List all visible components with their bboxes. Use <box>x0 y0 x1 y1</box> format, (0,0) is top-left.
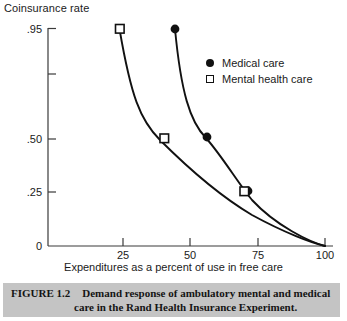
caption-line-1: FIGURE 1.2 Demand response of ambulatory… <box>11 286 336 300</box>
legend-item-mental-health-care: Mental health care <box>203 71 313 87</box>
caption-text-line-1: Demand response of ambulatory mental and… <box>82 286 330 300</box>
x-tick-label-25: 25 <box>117 249 129 261</box>
x-tick-label-50: 50 <box>184 249 196 261</box>
filled-circle-icon <box>203 59 217 67</box>
legend-label-medical-care: Medical care <box>222 57 284 69</box>
x-tick-label-100: 100 <box>316 249 334 261</box>
data-point-mental-health-care <box>240 187 249 196</box>
y-tick-label-95: .95 <box>16 23 42 35</box>
data-point-medical-care <box>203 133 212 142</box>
caption-text-line-2: care in the Rand Health Insurance Experi… <box>11 300 336 314</box>
y-tick-label-25: .25 <box>16 186 42 198</box>
data-point-mental-health-care <box>116 25 125 34</box>
legend-label-mental-health-care: Mental health care <box>222 73 313 85</box>
legend-item-medical-care: Medical care <box>203 55 313 71</box>
y-tick-label-50: .50 <box>16 133 42 145</box>
legend: Medical care Mental health care <box>203 55 313 87</box>
figure-caption-band: FIGURE 1.2 Demand response of ambulatory… <box>3 283 340 317</box>
figure-container: Coinsurance rate .95 .50 .25 0 25 50 75 <box>0 0 347 321</box>
x-tick-label-75: 75 <box>252 249 264 261</box>
y-tick-label-0: 0 <box>16 240 42 252</box>
data-point-mental-health-care <box>160 134 169 143</box>
caption-figure-number: FIGURE 1.2 <box>11 286 70 300</box>
x-axis-title: Expenditures as a percent of use in free… <box>0 261 347 273</box>
data-point-medical-care <box>171 25 180 34</box>
plot-area <box>0 0 347 282</box>
open-square-icon <box>203 75 217 83</box>
